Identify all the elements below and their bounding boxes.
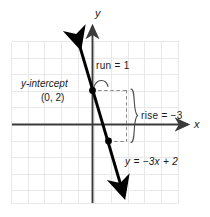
y-axis-label: y bbox=[95, 8, 101, 19]
run-arc bbox=[94, 80, 109, 88]
rise-run-guides bbox=[92, 90, 127, 142]
y-intercept-label: y-intercept bbox=[21, 79, 68, 89]
y-intercept-point-label: (0, 2) bbox=[41, 93, 64, 103]
point-second bbox=[105, 138, 112, 145]
rise-brace bbox=[131, 89, 138, 143]
point-y-intercept bbox=[89, 87, 96, 94]
x-axis-label: x bbox=[194, 119, 200, 130]
graph-figure: y x run = 1 y-intercept (0, 2) rise = −3… bbox=[0, 0, 210, 217]
run-label: run = 1 bbox=[96, 61, 130, 71]
equation-label: y = −3x + 2 bbox=[125, 157, 178, 167]
rise-label: rise = −3 bbox=[141, 111, 183, 121]
graph-canvas bbox=[0, 0, 210, 217]
grid-lines bbox=[12, 42, 179, 204]
